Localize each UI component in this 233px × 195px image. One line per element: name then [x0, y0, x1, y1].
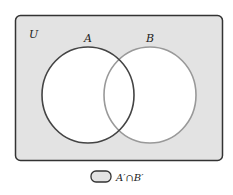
legend-swatch [91, 171, 111, 182]
venn-diagram: U A B A′∩B′ [0, 0, 233, 195]
universe-label: U [29, 28, 39, 41]
set-a-label: A [83, 32, 92, 45]
legend-label: A′∩B′ [115, 172, 144, 183]
set-b-label: B [145, 32, 154, 45]
